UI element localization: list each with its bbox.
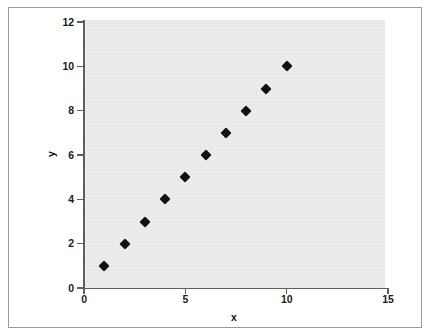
y-tick-label-text: 8: [68, 105, 74, 116]
y-tick-label: 4: [52, 194, 74, 205]
x-tick-label: 5: [174, 294, 196, 305]
y-tick-mark: [77, 243, 83, 245]
y-tick-label-text: 4: [68, 194, 74, 205]
plot-area: [84, 20, 385, 288]
y-tick-label-text: 0: [68, 283, 74, 294]
y-tick-mark: [77, 287, 83, 289]
y-axis-title: y: [43, 147, 59, 161]
y-axis-line: [83, 20, 85, 289]
y-tick-label: 2: [52, 238, 74, 249]
y-tick-label: 10: [52, 61, 74, 72]
y-tick-mark: [77, 21, 83, 23]
y-tick-mark: [77, 199, 83, 201]
y-tick-label-text: 12: [63, 17, 74, 28]
y-tick-label: 8: [52, 105, 74, 116]
x-tick-label: 15: [377, 294, 399, 305]
x-axis-title-text: x: [231, 311, 237, 323]
x-tick-label: 10: [276, 294, 298, 305]
y-tick-mark: [77, 66, 83, 68]
y-tick-mark: [77, 110, 83, 112]
y-tick-label-text: 6: [68, 150, 74, 161]
chart-figure: 024681012 051015 y x: [0, 0, 430, 336]
y-tick-label: 0: [52, 283, 74, 294]
y-tick-label: 12: [52, 17, 74, 28]
x-axis-line: [83, 288, 389, 290]
y-tick-mark: [77, 154, 83, 156]
y-tick-label-text: 2: [68, 238, 74, 249]
x-axis-title: x: [0, 311, 430, 323]
y-tick-label-text: 10: [63, 61, 74, 72]
x-tick-label: 0: [73, 294, 95, 305]
